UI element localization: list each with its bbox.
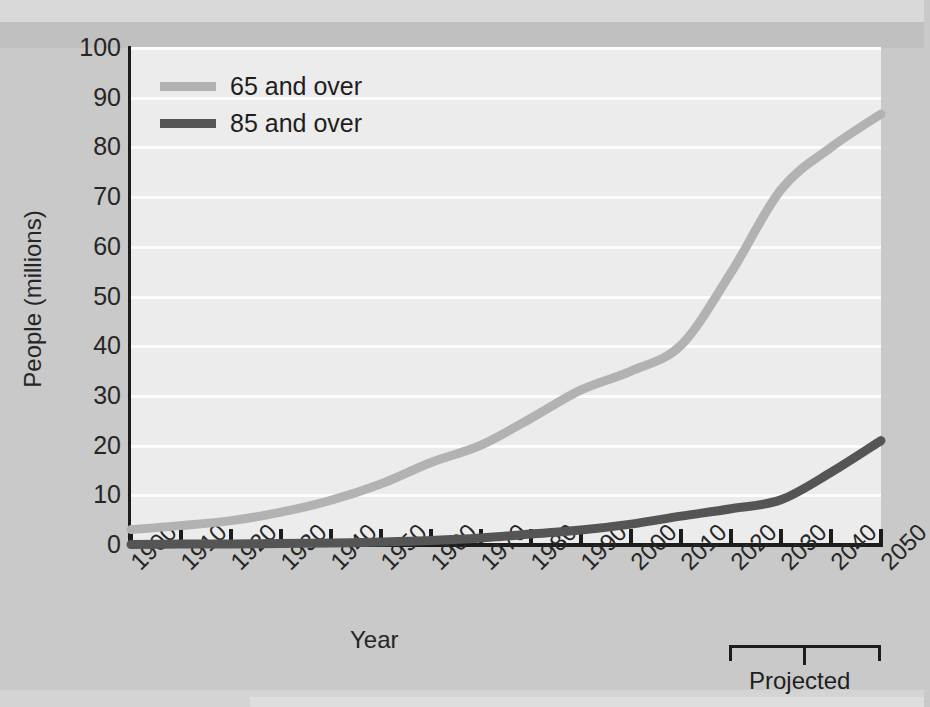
page-top-band-2 (0, 22, 924, 48)
legend-label: 65 and over (230, 72, 362, 101)
gridline (131, 196, 881, 199)
x-tick (679, 529, 683, 547)
projected-label: Projected (749, 667, 850, 695)
x-tick (829, 529, 833, 547)
y-tick-label: 40 (61, 333, 121, 358)
y-axis-title: People (millions) (19, 169, 47, 429)
y-tick-label: 0 (61, 532, 121, 557)
x-tick (179, 529, 183, 547)
y-tick-label: 80 (61, 134, 121, 159)
x-tick (379, 529, 383, 547)
x-axis-title: Year (350, 626, 399, 654)
y-tick-label: 20 (61, 433, 121, 458)
legend-label: 85 and over (230, 109, 362, 138)
x-tick (329, 529, 333, 547)
gridline (131, 146, 881, 149)
y-tick-label: 30 (61, 383, 121, 408)
legend-item[interactable]: 85 and over (160, 105, 490, 142)
y-tick-label: 90 (61, 85, 121, 110)
x-tick (429, 529, 433, 547)
x-tick (879, 529, 883, 547)
gridline (131, 345, 881, 348)
page-bottom-strip (250, 697, 924, 707)
x-tick (129, 529, 133, 547)
gridline (131, 494, 881, 497)
y-tick-label: 10 (61, 482, 121, 507)
x-tick (579, 529, 583, 547)
projected-bracket-right-cap (878, 645, 881, 661)
x-tick (479, 529, 483, 547)
legend-item[interactable]: 65 and over (160, 68, 490, 105)
x-tick-label: 2050 (875, 518, 930, 576)
x-tick (279, 529, 283, 547)
gridline (131, 395, 881, 398)
x-tick (779, 529, 783, 547)
y-tick-label: 100 (61, 35, 121, 60)
x-tick (529, 529, 533, 547)
y-tick-label: 60 (61, 234, 121, 259)
gridline (131, 445, 881, 448)
y-tick-label: 50 (61, 284, 121, 309)
y-axis-line (128, 46, 131, 547)
gridline (131, 296, 881, 299)
gridline (131, 47, 881, 50)
y-axis-tick-labels: 0102030405060708090100 (55, 0, 121, 707)
projected-bracket-left-cap (729, 645, 732, 661)
chart-legend: 65 and over85 and over (160, 68, 490, 142)
gridline (131, 246, 881, 249)
x-tick (229, 529, 233, 547)
legend-swatch-icon (160, 82, 216, 91)
x-tick (729, 529, 733, 547)
x-tick (629, 529, 633, 547)
legend-swatch-icon (160, 119, 216, 128)
projected-bracket-stem (803, 648, 806, 665)
page-top-band (0, 0, 924, 22)
y-tick-label: 70 (61, 184, 121, 209)
